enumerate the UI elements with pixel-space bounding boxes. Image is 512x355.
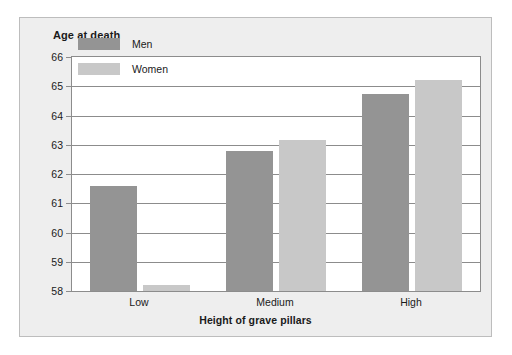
bar-men-low[interactable]: [90, 186, 137, 291]
legend-label: Men: [132, 38, 152, 50]
legend-item-women[interactable]: Women: [78, 59, 168, 78]
y-axis-tick: [66, 262, 71, 263]
y-axis-tick: [66, 291, 71, 292]
bar-fill: [362, 94, 409, 291]
y-axis-label: 60: [51, 227, 63, 239]
bar-fill: [143, 285, 190, 291]
plot-area: 585960616263646566: [71, 56, 481, 292]
bar-fill: [279, 140, 326, 291]
legend-swatch-men: [78, 38, 120, 50]
y-axis-label: 59: [51, 256, 63, 268]
legend-label: Women: [132, 63, 168, 75]
plot-inner: 585960616263646566: [72, 57, 480, 291]
y-axis-tick: [66, 174, 71, 175]
x-axis-label-low: Low: [129, 296, 148, 308]
x-axis-title: Height of grave pillars: [20, 314, 491, 326]
y-axis-label: 58: [51, 285, 63, 297]
chart-figure: Age at death 585960616263646566 Height o…: [19, 17, 492, 337]
y-axis-label: 64: [51, 110, 63, 122]
legend-swatch-women: [78, 63, 120, 75]
y-axis-tick: [66, 203, 71, 204]
bar-group: [90, 57, 190, 291]
bar-women-low[interactable]: [143, 285, 190, 291]
bar-men-high[interactable]: [362, 94, 409, 291]
legend-item-men[interactable]: Men: [78, 34, 168, 53]
bar-fill: [226, 151, 273, 291]
y-axis-tick: [66, 86, 71, 87]
y-axis-tick: [66, 116, 71, 117]
y-axis-label: 63: [51, 139, 63, 151]
y-axis-label: 65: [51, 80, 63, 92]
bar-group: [226, 57, 326, 291]
y-axis-tick: [66, 145, 71, 146]
y-axis-label: 66: [51, 51, 63, 63]
y-axis-tick: [66, 233, 71, 234]
bar-women-high[interactable]: [415, 80, 462, 291]
bar-fill: [90, 186, 137, 291]
y-axis-tick: [66, 57, 71, 58]
bar-women-medium[interactable]: [279, 140, 326, 291]
y-axis-label: 62: [51, 168, 63, 180]
x-axis-label-medium: Medium: [256, 296, 293, 308]
x-axis-label-high: High: [400, 296, 422, 308]
chart-legend: MenWomen: [78, 34, 168, 84]
bar-fill: [415, 80, 462, 291]
y-axis-label: 61: [51, 197, 63, 209]
bar-men-medium[interactable]: [226, 151, 273, 291]
bar-group: [362, 57, 462, 291]
